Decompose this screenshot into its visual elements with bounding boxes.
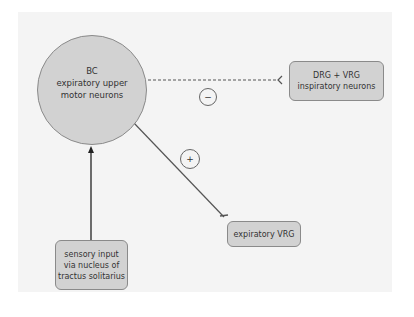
expiratory-vrg-node: expiratory VRG [227,221,301,247]
bc-label-line2: expiratory upper [56,77,127,89]
sensory-label-line3: tractus solitarius [58,271,125,282]
minus-sign-label: − [204,92,212,102]
plus-sign-icon: + [180,149,200,169]
sensory-input-node: sensory input via nucleus of tractus sol… [55,240,128,290]
excitatory-connector [133,122,228,217]
minus-sign-icon: − [199,88,217,106]
bc-label-line3: motor neurons [61,89,124,101]
bc-expiratory-upper-motor-neurons-node: BC expiratory upper motor neurons [37,35,147,145]
sensory-label-line1: sensory input [64,249,118,260]
bc-label-line1: BC [86,65,98,77]
plus-sign-label: + [186,154,194,164]
sensory-label-line2: via nucleus of [64,260,120,271]
drg-label-line2: inspiratory neurons [298,81,376,92]
drg-vrg-inspiratory-neurons-node: DRG + VRG inspiratory neurons [289,61,384,101]
vrg-label: expiratory VRG [234,229,295,240]
drg-label-line1: DRG + VRG [313,70,360,81]
inhibitory-connector [148,76,282,84]
sensory-arrow [88,146,94,240]
